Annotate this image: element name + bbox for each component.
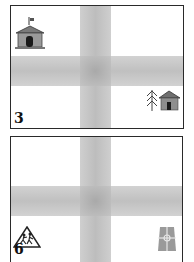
crossroad-center bbox=[80, 186, 111, 216]
map-tile-3: 3 bbox=[10, 5, 184, 129]
road-junction-icon bbox=[158, 227, 176, 251]
tile-number: 6 bbox=[14, 242, 24, 256]
tile-number: 3 bbox=[14, 111, 24, 125]
map-tile-6: 6 bbox=[10, 136, 183, 262]
town-hall-icon bbox=[14, 16, 46, 50]
tree-and-cabin-icon bbox=[146, 88, 182, 112]
crossroad-center bbox=[80, 56, 111, 86]
